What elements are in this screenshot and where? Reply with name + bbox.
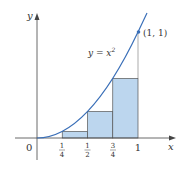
rect-2 [88, 112, 113, 139]
x-axis-label: x [168, 141, 174, 152]
curve-label: y = x2 [87, 46, 115, 58]
rect-3 [113, 78, 138, 138]
rect-1 [62, 131, 87, 138]
origin-label: 0 [26, 142, 32, 153]
y-arrow-icon [35, 13, 40, 20]
tick-one: 1 [135, 142, 141, 153]
svg-text:4: 4 [111, 151, 116, 159]
tick-three-quarter: 3 4 [110, 142, 116, 159]
svg-text:4: 4 [60, 151, 65, 159]
y-axis-label: y [26, 10, 33, 21]
svg-text:3: 3 [111, 142, 115, 150]
point-label: (1, 1) [143, 28, 167, 38]
point-1-1 [137, 30, 141, 34]
tick-quarter: 1 4 [59, 142, 65, 159]
tick-half: 1 2 [85, 142, 91, 159]
svg-text:2: 2 [85, 151, 89, 159]
riemann-diagram: y x 0 (1, 1) y = x2 1 4 1 2 3 4 1 [0, 0, 189, 172]
svg-text:1: 1 [85, 142, 89, 150]
x-arrow-icon [169, 136, 176, 141]
svg-text:1: 1 [60, 142, 64, 150]
